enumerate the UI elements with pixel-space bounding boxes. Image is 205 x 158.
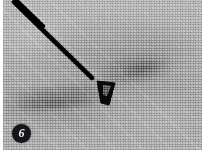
ultrasound-scan-image: 6 — [3, 0, 202, 150]
right-white-margin — [202, 0, 205, 158]
bottom-white-margin — [0, 150, 205, 158]
left-white-margin — [0, 0, 3, 158]
figure-panel: 6 — [0, 0, 205, 158]
panel-number-badge: 6 — [12, 124, 31, 143]
bright-tissue-plane-lower-right — [123, 96, 202, 142]
